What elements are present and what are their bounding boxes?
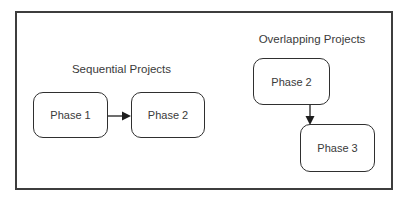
node-phase-3: Phase 3: [300, 124, 375, 172]
arrow-right-icon: [108, 110, 132, 122]
node-phase-2-label: Phase 2: [148, 109, 188, 121]
diagram-canvas: Sequential Projects Phase 1 Phase 2 Over…: [0, 0, 404, 206]
arrow-down-icon: [304, 105, 316, 125]
node-phase-1: Phase 1: [33, 92, 108, 138]
node-phase-2: Phase 2: [131, 92, 205, 138]
section-title-sequential: Sequential Projects: [44, 63, 199, 75]
node-phase-2-overlap-label: Phase 2: [271, 76, 311, 88]
node-phase-3-label: Phase 3: [317, 142, 357, 154]
section-title-overlapping: Overlapping Projects: [237, 33, 387, 45]
node-phase-2-overlap: Phase 2: [253, 58, 330, 105]
node-phase-1-label: Phase 1: [50, 109, 90, 121]
